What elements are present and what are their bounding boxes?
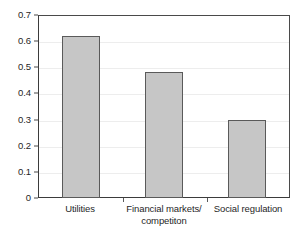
x-axis-label: Social regulation — [206, 203, 290, 215]
x-axis-label-line: Social regulation — [206, 203, 290, 215]
x-axis-tick-mark — [123, 198, 124, 202]
y-axis: 0.70.60.50.40.30.20.10 — [0, 15, 38, 198]
bar[interactable] — [145, 72, 183, 198]
bar-slot — [39, 16, 122, 198]
y-axis-tick-label: 0.5 — [18, 63, 31, 73]
y-axis-tick-label: 0.7 — [18, 10, 31, 20]
y-axis-tick-label: 0.6 — [18, 36, 31, 46]
bar[interactable] — [228, 120, 266, 198]
y-axis-tick-label: 0.3 — [18, 115, 31, 125]
bar[interactable] — [62, 36, 100, 199]
y-axis-tick-label: 0.2 — [18, 141, 31, 151]
x-axis-label: Utilities — [38, 203, 122, 215]
y-axis-tick-label: 0.1 — [18, 167, 31, 177]
x-axis-label: Financial markets/competiton — [122, 203, 206, 227]
x-axis-label-line: competiton — [122, 215, 206, 227]
bar-slot — [122, 16, 205, 198]
x-axis-labels: UtilitiesFinancial markets/competitonSoc… — [38, 203, 290, 239]
x-axis-label-line: Financial markets/ — [122, 203, 206, 215]
y-axis-tick-label: 0 — [26, 193, 31, 203]
x-axis-tick-mark — [207, 198, 208, 202]
x-axis-label-line: Utilities — [38, 203, 122, 215]
bar-slot — [206, 16, 289, 198]
y-axis-tick-label: 0.4 — [18, 89, 31, 99]
bars-layer — [39, 16, 289, 198]
bar-chart: 0.70.60.50.40.30.20.10 UtilitiesFinancia… — [0, 0, 304, 242]
